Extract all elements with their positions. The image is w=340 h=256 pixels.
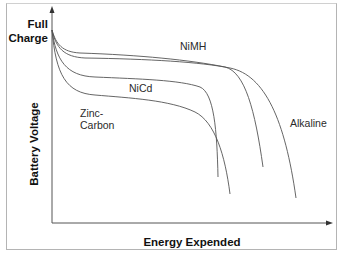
y-axis-arrow-icon	[50, 6, 55, 13]
curve-nimh	[52, 30, 263, 167]
x-axis-arrow-icon	[326, 221, 333, 226]
x-axis-title: Energy Expended	[143, 236, 240, 248]
discharge-chart	[0, 0, 340, 256]
y-tick-full: Full	[8, 17, 48, 31]
curve-zinc-carbon	[52, 30, 230, 194]
label-alkaline: Alkaline	[290, 117, 327, 129]
y-tick-full-charge: Full Charge	[8, 17, 48, 45]
label-nicd: NiCd	[129, 82, 152, 94]
curve-nicd	[52, 30, 218, 177]
y-tick-charge: Charge	[8, 31, 48, 45]
y-axis-title: Battery Voltage	[28, 102, 40, 186]
label-zinc-carbon: Zinc- Carbon	[80, 107, 114, 131]
label-nimh: NiMH	[180, 40, 206, 52]
label-zinc-line2: Carbon	[80, 119, 114, 131]
label-zinc-line1: Zinc-	[80, 107, 114, 119]
